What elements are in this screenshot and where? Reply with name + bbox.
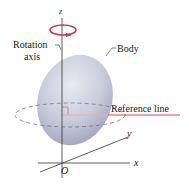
z-axis-label: z (59, 6, 62, 17)
diagram-canvas (0, 0, 189, 185)
rotation-arrow-icon (50, 25, 76, 37)
body-shape (26, 45, 125, 155)
reference-line-label: Reference line (111, 103, 169, 114)
y-axis-label: y (127, 128, 131, 139)
rotation-axis-label-line1: Rotation (13, 39, 47, 50)
rotation-axis-leader (55, 45, 61, 50)
body-label: Body (117, 43, 139, 54)
body-leader (106, 48, 116, 56)
origin-label: O (61, 165, 68, 176)
rotation-axis-label-line2: axis (24, 51, 40, 62)
rotation-diagram: z Rotation axis Body Reference line y x … (0, 0, 189, 185)
y-axis (40, 137, 128, 172)
x-axis-label: x (134, 157, 138, 168)
